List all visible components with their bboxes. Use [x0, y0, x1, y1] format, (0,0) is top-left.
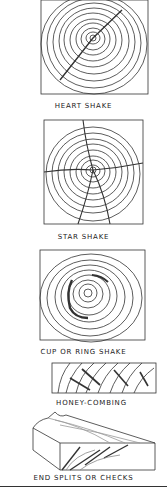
- star-shake-figure: [44, 120, 143, 224]
- end-splits-figure: [33, 412, 155, 470]
- honey-combing-figure: [52, 363, 156, 393]
- star-shake-label: STAR SHAKE: [0, 233, 167, 241]
- bottom-divider: [0, 486, 167, 487]
- heart-shake-label: HEART SHAKE: [0, 102, 167, 110]
- heart-shake-figure: [41, 0, 148, 94]
- wood-defects-diagram: [0, 0, 167, 493]
- cup-ring-shake-figure: [40, 250, 145, 342]
- cup-ring-shake-label: CUP OR RING SHAKE: [0, 348, 167, 356]
- honey-combing-label: HONEY-COMBING: [8, 399, 167, 407]
- end-splits-label: END SPLITS OR CHECKS: [0, 474, 167, 482]
